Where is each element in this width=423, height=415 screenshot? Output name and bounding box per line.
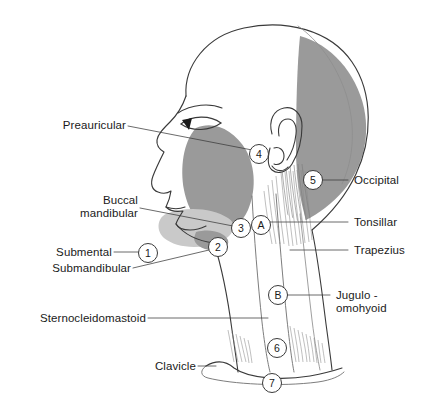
marker-5[interactable]: 5 <box>304 171 323 190</box>
marker-6-label: 6 <box>274 342 280 354</box>
label-jugulo-omohyoid: Jugulo - omohyoid <box>336 289 387 314</box>
eye <box>178 105 222 130</box>
marker-1[interactable]: 1 <box>139 244 158 263</box>
label-sternocleidomastoid: Sternocleidomastoid <box>0 312 146 325</box>
marker-b[interactable]: B <box>269 286 288 305</box>
marker-a[interactable]: A <box>252 216 271 235</box>
anatomical-figure: 1 2 3 4 5 6 7 <box>0 0 423 415</box>
label-trapezius: Trapezius <box>354 244 405 257</box>
marker-b-label: B <box>274 289 281 301</box>
marker-1-label: 1 <box>145 247 151 259</box>
marker-3-label: 3 <box>238 222 244 234</box>
label-buccal-line-2: mandibular <box>0 207 138 220</box>
label-submandibular: Submandibular <box>0 262 131 275</box>
label-preauricular: Preauricular <box>0 119 126 132</box>
marker-6[interactable]: 6 <box>268 339 287 358</box>
marker-5-label: 5 <box>310 174 316 186</box>
label-jugulo-line-1: Jugulo - <box>336 289 387 302</box>
marker-7[interactable]: 7 <box>263 374 282 393</box>
label-jugulo-line-2: omohyoid <box>336 302 387 315</box>
marker-a-label: A <box>257 219 264 231</box>
occipital-shaded-region <box>296 36 366 220</box>
marker-7-label: 7 <box>269 377 275 389</box>
anterior-neck-contour <box>214 243 238 372</box>
marker-4[interactable]: 4 <box>250 145 269 164</box>
label-clavicle: Clavicle <box>0 360 196 373</box>
marker-2[interactable]: 2 <box>209 238 228 257</box>
label-buccal-mandibular: Buccal mandibular <box>0 194 138 219</box>
label-tonsillar: Tonsillar <box>354 216 397 229</box>
marker-2-label: 2 <box>215 241 221 253</box>
marker-3[interactable]: 3 <box>232 219 251 238</box>
ear-tragus <box>274 147 284 164</box>
label-occipital: Occipital <box>354 174 399 187</box>
upper-lip-line <box>166 207 185 209</box>
label-buccal-line-1: Buccal <box>0 194 138 207</box>
eyebrow <box>178 105 222 113</box>
trapezius-contour <box>300 214 320 370</box>
marker-4-label: 4 <box>256 148 262 160</box>
posterior-neck-contour <box>312 230 332 370</box>
label-submental: Submental <box>0 246 112 259</box>
ear-antihelix <box>278 119 296 160</box>
